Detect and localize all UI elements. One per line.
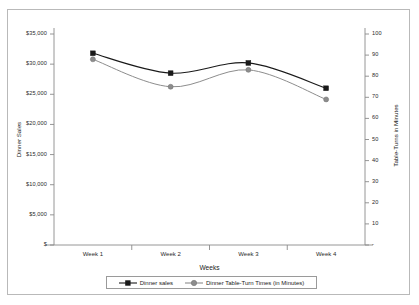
y-axis-right-tick-label: -	[372, 241, 398, 247]
plot-area: $$5,000$10,000$15,000$20,000$25,000$30,0…	[8, 10, 411, 296]
data-series	[90, 51, 328, 102]
y-axis-right-tick-label: 20	[372, 199, 398, 205]
y-axis-right-tick-label: 90	[372, 51, 398, 57]
x-axis-title: Weeks	[8, 264, 411, 271]
y-axis-left-tick-label: $5,000	[8, 211, 47, 217]
x-axis-category-label: Week 2	[132, 251, 210, 257]
y-axis-right-tick-label: 30	[372, 178, 398, 184]
chart-frame: $$5,000$10,000$15,000$20,000$25,000$30,0…	[7, 9, 410, 295]
x-axis-category-label: Week 4	[287, 251, 365, 257]
legend-square-marker-icon	[119, 279, 137, 287]
y-axis-left-tick-label: $10,000	[8, 181, 47, 187]
chart-legend: Dinner salesDinner Table-Turn Times (in …	[106, 276, 317, 289]
x-axis-category-label: Week 3	[210, 251, 288, 257]
y-axis-left-tick-label: $35,000	[8, 30, 47, 36]
legend-label: Dinner Table-Turn Times (in Minutes)	[206, 280, 304, 286]
legend-circle-marker-icon	[185, 279, 203, 287]
y-axis-left-tick-label: $	[8, 241, 47, 247]
axis-ticks	[50, 34, 369, 250]
y-axis-right-title: Table-Turns in Minutes	[392, 96, 399, 176]
y-axis-left-tick-label: $30,000	[8, 60, 47, 66]
y-axis-right-tick-label: 80	[372, 72, 398, 78]
series-dinner-sales	[90, 51, 328, 91]
x-axis-category-label: Week 1	[54, 251, 132, 257]
y-axis-left-tick-label: $25,000	[8, 90, 47, 96]
legend-entry[interactable]: Dinner Table-Turn Times (in Minutes)	[185, 279, 304, 287]
legend-label: Dinner sales	[140, 280, 173, 286]
legend-entry[interactable]: Dinner sales	[119, 279, 173, 287]
y-axis-left-title: Dinner Sales	[15, 108, 22, 172]
y-axis-right-tick-label: 10	[372, 220, 398, 226]
y-axis-right-tick-label: 100	[372, 30, 398, 36]
